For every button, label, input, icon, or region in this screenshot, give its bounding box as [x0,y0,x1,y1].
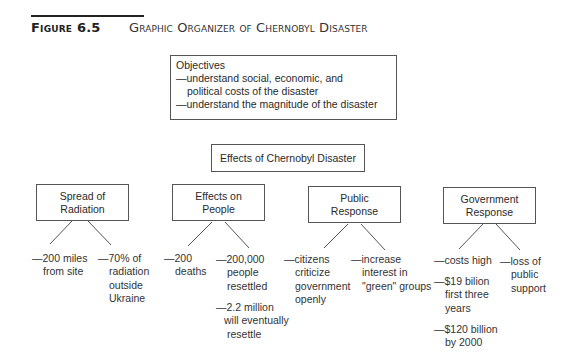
detail-text: outside [98,279,149,292]
category-label: Spread of [60,190,106,203]
category-spread-of-radiation: Spread of Radiation [36,184,129,221]
central-topic-label: Effects of Chernobyl Disaster [220,152,356,164]
category-label: Public [340,192,369,205]
detail-text: public [500,268,546,281]
detail-text: Ukraine [98,292,149,305]
detail-item: —citizens criticize government openly [284,253,350,306]
objective-1-cont: political costs of the disaster [176,85,391,98]
detail-text: —loss of [500,255,546,268]
detail-text: openly [284,293,350,306]
detail-text: —$120 billion [434,323,498,336]
detail-item: —70% of radiation outside Ukraine [98,252,149,305]
objectives-heading: Objectives [176,59,391,72]
objective-1: —understand social, economic, and [176,72,391,85]
detail-text: —200 miles [32,252,87,265]
category-label: Response [466,206,513,219]
category-label: Radiation [60,203,104,216]
detail-text: government [284,280,350,293]
detail-item: —costs high [434,254,492,267]
detail-item: —200 deaths [164,252,207,279]
detail-text: —costs high [434,254,492,267]
detail-text: —increase [351,253,431,266]
category-effects-on-people: Effects on People [172,184,265,221]
detail-text: deaths [164,265,207,278]
detail-item: —2.2 million will eventually resettle [216,301,289,341]
detail-text: —citizens [284,253,350,266]
central-topic-box: Effects of Chernobyl Disaster [211,144,365,172]
detail-text: —2.2 million [216,301,289,314]
objective-2: —understand the magnitude of the disaste… [176,98,391,111]
detail-text: first three [434,288,489,301]
detail-text: people [216,266,267,279]
detail-item: —loss of public support [500,255,546,295]
detail-text: interest in [351,266,431,279]
detail-item: —increase interest in "green" groups [351,253,431,293]
category-government-response: Government Response [443,187,536,224]
detail-text: criticize [284,266,350,279]
category-label: Response [331,205,378,218]
category-label: Effects on [195,190,242,203]
detail-text: by 2000 [434,336,498,349]
detail-text: "green" groups [351,280,431,293]
detail-item: —200 miles from site [32,252,87,279]
detail-text: support [500,282,546,295]
detail-text: resettled [216,280,267,293]
detail-text: will eventually [216,314,289,327]
category-label: Government [461,193,519,206]
detail-text: radiation [98,265,149,278]
detail-text: —70% of [98,252,149,265]
detail-text: years [434,302,489,315]
detail-text: —200 [164,252,207,265]
detail-text: —$19 bilion [434,275,489,288]
detail-item: —$120 billion by 2000 [434,323,498,350]
objectives-box: Objectives —understand social, economic,… [170,55,397,120]
category-public-response: Public Response [308,186,401,223]
category-label: People [202,203,235,216]
detail-text: resettle [216,328,289,341]
detail-item: —200,000 people resettled [216,253,267,293]
detail-text: —200,000 [216,253,267,266]
detail-item: —$19 bilion first three years [434,275,489,315]
detail-text: from site [32,265,87,278]
